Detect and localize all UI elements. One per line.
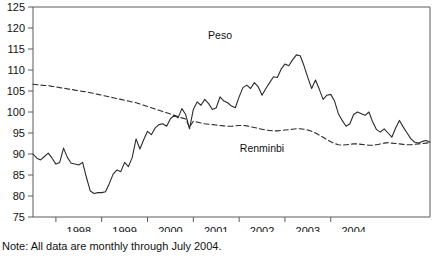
y-tick-label: 90 <box>13 148 25 160</box>
chart-plot-area: 7580859095100105110115120125 19981999200… <box>0 0 437 232</box>
x-tick-label: 2002 <box>250 225 274 232</box>
series-group <box>33 55 430 194</box>
x-axis-ticks: 1998199920002001200220032004 <box>56 217 366 232</box>
x-tick-label: 1999 <box>112 225 136 232</box>
y-tick-label: 105 <box>7 85 25 97</box>
y-tick-label: 125 <box>7 1 25 13</box>
y-tick-label: 80 <box>13 190 25 202</box>
line-chart: 7580859095100105110115120125 19981999200… <box>0 0 437 232</box>
series-annotation: Peso <box>208 29 232 41</box>
chart-note: Note: All data are monthly through July … <box>2 240 222 252</box>
figure: 7580859095100105110115120125 19981999200… <box>0 0 437 267</box>
series-annotations: PesoRenminbi <box>208 29 284 154</box>
y-tick-label: 85 <box>13 169 25 181</box>
x-tick-label: 2003 <box>296 225 320 232</box>
series-line-peso <box>33 55 430 194</box>
y-axis-ticks: 7580859095100105110115120125 <box>7 1 33 223</box>
x-tick-label: 2004 <box>341 225 365 232</box>
x-tick-label: 1998 <box>67 225 91 232</box>
y-tick-label: 95 <box>13 127 25 139</box>
y-tick-label: 120 <box>7 22 25 34</box>
y-tick-label: 100 <box>7 106 25 118</box>
y-tick-label: 115 <box>7 43 25 55</box>
y-tick-label: 110 <box>7 64 25 76</box>
x-tick-label: 2001 <box>204 225 228 232</box>
x-tick-label: 2000 <box>158 225 182 232</box>
series-annotation: Renminbi <box>240 142 284 154</box>
y-tick-label: 75 <box>13 211 25 223</box>
